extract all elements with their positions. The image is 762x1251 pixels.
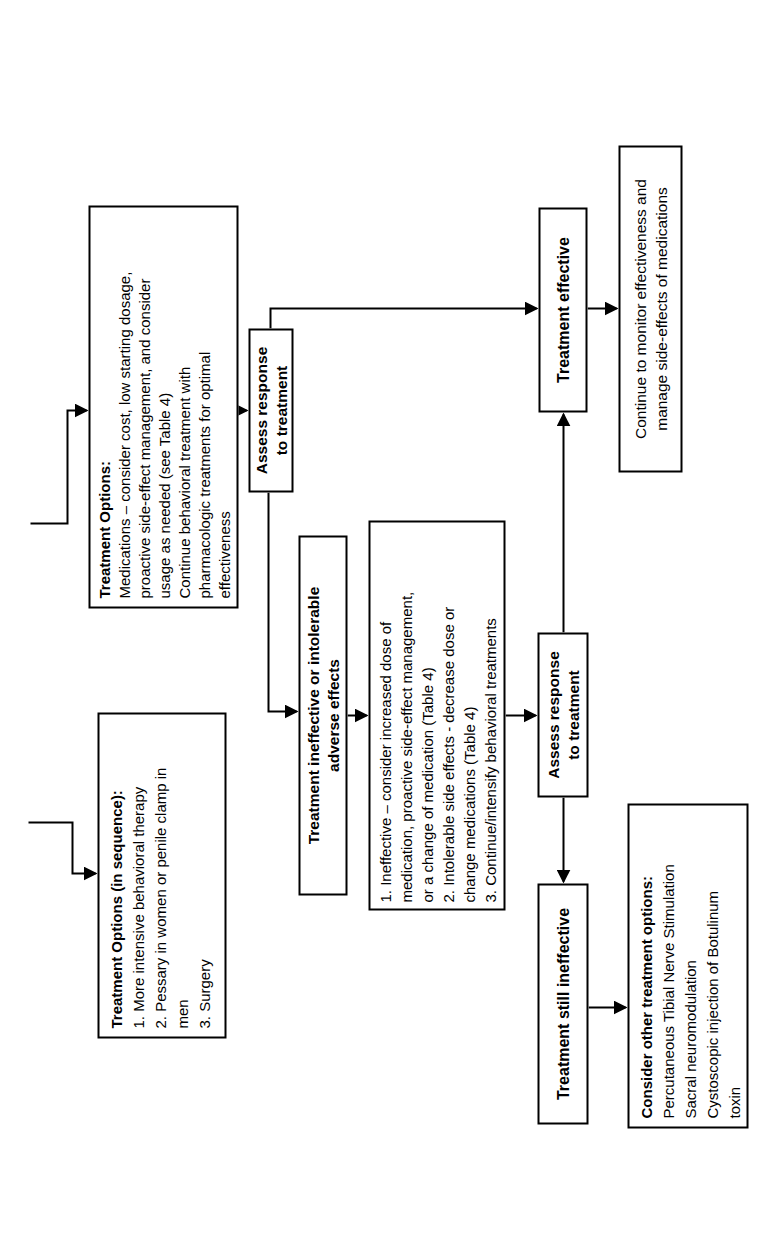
monitor-effectiveness-label: Continue to monitor effectiveness and ma… — [629, 179, 671, 439]
box-treatment-still-ineffective: Treatment still ineffective — [537, 883, 588, 1124]
adjustment-options-body: 1. Ineffective – consider increased dose… — [374, 528, 500, 902]
box-assess-response-2: Assess response to treatment — [537, 632, 588, 797]
other-options-body: Percutaneous Tibial Nerve Stimulation Sa… — [657, 813, 745, 1118]
box-assess-response-1: Assess response to treatment — [248, 328, 293, 492]
box-adjustment-options: 1. Ineffective – consider increased dose… — [368, 520, 505, 910]
assess-response-1-label: Assess response to treatment — [251, 346, 291, 474]
sequence-options-heading: Treatment Options (in sequence): — [105, 722, 127, 1028]
treatment-still-ineffective-label: Treatment still ineffective — [553, 907, 573, 1099]
box-medication-treatment-options: Treatment Options: Medications – conside… — [88, 205, 238, 608]
assess-response-2-label: Assess response to treatment — [543, 651, 583, 779]
rotated-figure-page: Treatment Options: Medications – conside… — [0, 0, 762, 1251]
box-treatment-effective: Treatment effective — [538, 207, 587, 412]
arrow-into-medication-options — [30, 410, 86, 523]
box-other-treatment-options: Consider other treatment options: Percut… — [627, 803, 748, 1128]
arrow-into-sequence-options — [28, 822, 95, 873]
medication-options-heading: Treatment Options: — [94, 215, 114, 598]
medication-options-body: Medications – consider cost, low startin… — [114, 215, 234, 598]
box-monitor-effectiveness: Continue to monitor effectiveness and ma… — [618, 145, 682, 472]
flowchart-canvas: Treatment Options: Medications – conside… — [0, 0, 762, 1251]
sequence-options-body: 1. More intensive behavioral therapy 2. … — [127, 722, 215, 1028]
box-sequence-treatment-options: Treatment Options (in sequence): 1. More… — [97, 712, 226, 1038]
other-options-heading: Consider other treatment options: — [635, 813, 657, 1118]
arrow-assess1-to-effective — [270, 308, 536, 328]
treatment-effective-label: Treatment effective — [553, 237, 573, 383]
box-treatment-ineffective: Treatment ineffective or intolerable adv… — [298, 535, 347, 895]
treatment-ineffective-label: Treatment ineffective or intolerable adv… — [303, 586, 343, 844]
arrow-assess1-to-ineffective — [268, 492, 296, 711]
